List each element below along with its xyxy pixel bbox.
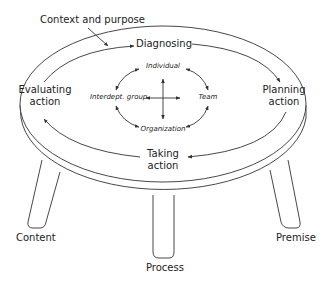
step-evaluating-line1: Evaluating — [18, 84, 72, 96]
level-organization: Organization — [140, 125, 186, 134]
level-team: Team — [198, 93, 218, 102]
step-taking-action: Taking action — [143, 148, 183, 172]
step-diagnosing: Diagnosing — [134, 38, 194, 50]
step-evaluating-line2: action — [18, 96, 72, 108]
step-planning-line2: action — [262, 96, 306, 108]
step-taking-line1: Taking — [143, 148, 183, 160]
leg-label-premise: Premise — [276, 232, 316, 244]
step-planning-action: Planning action — [262, 84, 306, 108]
step-diagnosing-label: Diagnosing — [136, 38, 192, 49]
step-planning-line1: Planning — [262, 84, 306, 96]
step-taking-line2: action — [143, 160, 183, 172]
level-individual: Individual — [143, 62, 183, 71]
leg-right — [270, 160, 300, 228]
leg-left — [28, 160, 60, 228]
leg-label-content: Content — [16, 232, 56, 244]
context-label: Context and purpose — [40, 14, 145, 26]
step-evaluating-action: Evaluating action — [18, 84, 72, 108]
leg-middle — [153, 195, 174, 258]
leg-label-process: Process — [146, 262, 184, 274]
level-interdept-group: Interdept. group — [90, 93, 140, 102]
